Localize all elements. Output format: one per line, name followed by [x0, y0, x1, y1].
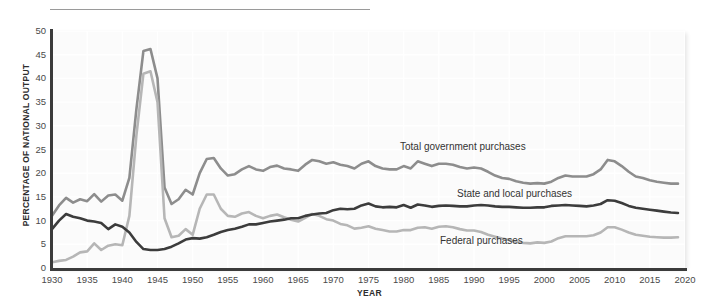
x-tick-label: 1985: [419, 274, 459, 285]
x-tick-label: 1945: [138, 274, 178, 285]
y-tick-label: 10: [22, 216, 46, 226]
chart-figure: PERCENTAGE OF NATIONAL OUTPUT 0510152025…: [0, 0, 719, 304]
series-lines: [52, 31, 685, 268]
y-tick-label: 20: [22, 168, 46, 178]
y-tick-label: 5: [22, 239, 46, 249]
y-tick-label: 25: [22, 145, 46, 155]
series-label: State and local purchases: [457, 188, 572, 199]
series-label: Total government purchases: [400, 141, 526, 152]
x-axis: [50, 268, 687, 271]
y-tick-label: 50: [22, 26, 46, 36]
x-tick-label: 1975: [349, 274, 389, 285]
x-tick-label: 2005: [560, 274, 600, 285]
x-tick-label: 1965: [278, 274, 318, 285]
series-label: Federal purchases: [440, 235, 523, 246]
y-tick-label: 40: [22, 73, 46, 83]
y-tick-label: 35: [22, 97, 46, 107]
x-tick-label: 1995: [489, 274, 529, 285]
y-tick-label: 45: [22, 50, 46, 60]
x-tick-label: 2015: [630, 274, 670, 285]
series-line: [52, 200, 678, 250]
x-tick-label: 1935: [67, 274, 107, 285]
plot-area: [52, 31, 685, 268]
x-tick-label: 1950: [173, 274, 213, 285]
x-tick-label: 1955: [208, 274, 248, 285]
x-tick-label: 1960: [243, 274, 283, 285]
x-tick-label: 2020: [665, 274, 705, 285]
x-tick-label: 1970: [313, 274, 353, 285]
y-tick-label: 0: [22, 263, 46, 273]
y-axis: [50, 29, 53, 269]
x-tick-label: 1940: [102, 274, 142, 285]
y-tick-label: 15: [22, 192, 46, 202]
series-line: [52, 71, 678, 262]
x-tick-label: 1980: [384, 274, 424, 285]
y-tick-label: 30: [22, 121, 46, 131]
x-tick-label: 1990: [454, 274, 494, 285]
x-axis-title: YEAR: [10, 288, 719, 298]
x-tick-label: 2000: [524, 274, 564, 285]
x-tick-label: 1930: [32, 274, 72, 285]
header-divider: [50, 9, 370, 10]
x-tick-label: 2010: [595, 274, 635, 285]
